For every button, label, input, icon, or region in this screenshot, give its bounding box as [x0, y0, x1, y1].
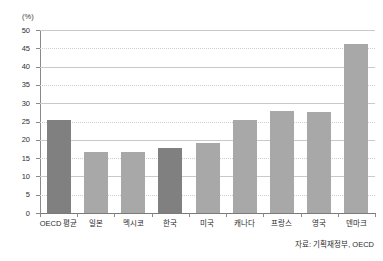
- x-axis-tick-mark: [226, 213, 227, 217]
- plot-area: [40, 30, 375, 213]
- bar-7: [307, 112, 331, 213]
- x-axis-tick-mark: [263, 213, 264, 217]
- y-axis-unit-label: (%): [22, 12, 34, 21]
- bar-2: [121, 152, 145, 213]
- y-axis-tick-label: 20: [8, 136, 30, 143]
- y-axis-tick-mark: [36, 158, 40, 159]
- x-axis-tick-mark: [40, 213, 41, 217]
- y-axis-tick-mark: [36, 195, 40, 196]
- y-axis-tick-mark: [36, 85, 40, 86]
- bar-5: [233, 120, 257, 213]
- bar-3: [158, 148, 182, 213]
- x-axis-tick-marks: [40, 213, 375, 218]
- y-axis-tick-mark: [36, 30, 40, 31]
- x-axis-tick-mark: [189, 213, 190, 217]
- y-axis-tick-label: 40: [8, 63, 30, 70]
- y-axis-tick-mark: [36, 140, 40, 141]
- bar-6: [270, 111, 294, 213]
- y-axis-tick-label: 10: [8, 173, 30, 180]
- y-axis-tick-label: 50: [8, 27, 30, 34]
- x-axis-tick-mark: [301, 213, 302, 217]
- y-axis-tick-label: 0: [8, 210, 30, 217]
- bar-0: [47, 120, 71, 213]
- x-axis-tick-labels: OECD 평균일본멕시코한국미국캐나다프랑스영국덴마크: [40, 219, 375, 233]
- bar-4: [196, 143, 220, 213]
- bar-chart: (%) 05101520253035404550 OECD 평균일본멕시코한국미…: [0, 0, 383, 261]
- y-axis-tick-mark: [36, 176, 40, 177]
- y-axis-tick-mark: [36, 122, 40, 123]
- x-axis-tick-mark: [114, 213, 115, 217]
- y-axis-tick-label: 5: [8, 191, 30, 198]
- x-axis-tick-label: 덴마크: [334, 219, 379, 229]
- y-axis-tick-label: 35: [8, 81, 30, 88]
- y-axis-tick-mark: [36, 103, 40, 104]
- y-axis-tick-mark: [36, 48, 40, 49]
- source-note: 자료: 기획재정부, OECD: [295, 238, 374, 249]
- bar-1: [84, 152, 108, 213]
- x-axis-tick-mark: [77, 213, 78, 217]
- y-axis-tick-label: 30: [8, 100, 30, 107]
- y-axis-tick-label: 15: [8, 155, 30, 162]
- chart-title-clipped: [62, 0, 320, 5]
- x-axis-tick-mark: [338, 213, 339, 217]
- bar-8: [344, 44, 368, 213]
- y-axis-tick-mark: [36, 67, 40, 68]
- bar-series: [40, 30, 375, 213]
- y-axis-tick-label: 25: [8, 118, 30, 125]
- y-axis-tick-label: 45: [8, 45, 30, 52]
- x-axis-tick-mark: [375, 213, 376, 217]
- x-axis-tick-mark: [152, 213, 153, 217]
